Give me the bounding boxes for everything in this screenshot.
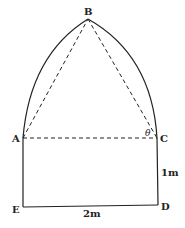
angle-theta-label: θ xyxy=(145,128,151,138)
dashed-line-bc xyxy=(88,19,157,138)
height-label: 1m xyxy=(161,167,179,178)
line-ed xyxy=(23,205,158,207)
label-e: E xyxy=(12,204,20,215)
label-c: C xyxy=(160,133,168,144)
width-label: 2m xyxy=(83,208,101,219)
label-a: A xyxy=(11,133,20,144)
line-cd xyxy=(157,138,158,205)
label-b: B xyxy=(84,6,92,17)
label-d: D xyxy=(161,201,170,212)
dashed-line-ab xyxy=(23,19,88,138)
arch-diagram: B A C E D θ 2m 1m xyxy=(0,0,185,228)
